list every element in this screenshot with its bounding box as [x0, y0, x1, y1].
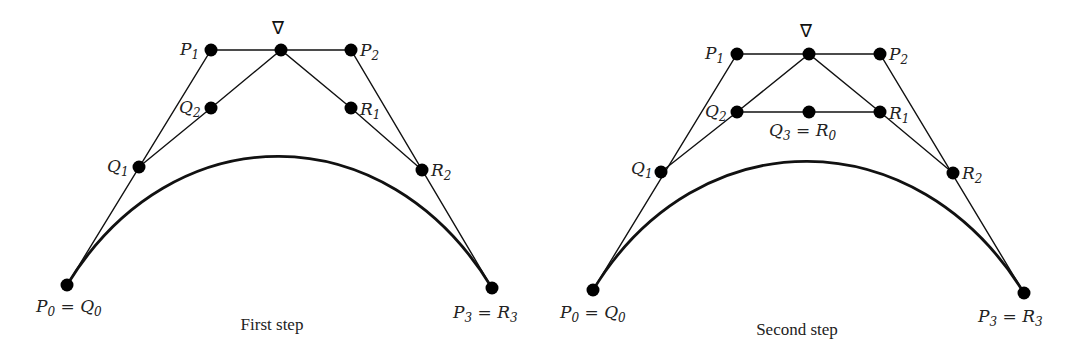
label-p3-r3: P3 = R3 — [452, 302, 518, 325]
point-r2 — [947, 167, 960, 180]
caption-first-step: First step — [241, 315, 304, 334]
label-q3-r0: Q3 = R0 — [769, 120, 836, 143]
point-q1 — [655, 166, 668, 179]
label-p3-r3: P3 = R3 — [977, 306, 1043, 329]
nabla-symbol: ∇ — [271, 17, 285, 38]
point-p0 — [61, 279, 74, 292]
label-p1: P1 — [179, 39, 199, 62]
point-p1 — [205, 44, 218, 57]
point-r1 — [345, 102, 358, 115]
label-r2: R2 — [961, 163, 982, 186]
panel-second-step: ∇ P1 P2 Q2 R1 Q3 = R0 Q1 R2 P0 = Q0 P3 =… — [559, 20, 1043, 339]
bezier-curve — [593, 161, 1024, 293]
label-p0-q0: P0 = Q0 — [559, 302, 626, 325]
bezier-curve — [67, 156, 492, 288]
point-p2 — [345, 44, 358, 57]
point-p2 — [874, 48, 887, 61]
panel-first-step: ∇ P1 P2 Q2 R1 Q1 R2 P0 = Q0 P3 = R3 Firs… — [35, 17, 518, 334]
label-p1: P1 — [704, 43, 724, 66]
label-r1: R1 — [888, 103, 909, 126]
caption-second-step: Second step — [756, 320, 838, 339]
point-p3 — [1018, 287, 1031, 300]
bezier-subdivision-diagram: ∇ P1 P2 Q2 R1 Q1 R2 P0 = Q0 P3 = R3 Firs… — [0, 0, 1087, 353]
label-q2: Q2 — [179, 97, 201, 120]
label-q1: Q1 — [107, 156, 129, 179]
point-q2 — [731, 106, 744, 119]
point-q3-r0 — [803, 106, 816, 119]
point-p0 — [587, 284, 600, 297]
nabla-symbol: ∇ — [799, 20, 813, 41]
point-q2 — [205, 102, 218, 115]
point-p3 — [486, 282, 499, 295]
label-p2: P2 — [888, 44, 908, 67]
point-q1 — [133, 161, 146, 174]
point-r1 — [874, 106, 887, 119]
label-r2: R2 — [430, 160, 451, 183]
point-p1 — [731, 48, 744, 61]
label-p0-q0: P0 = Q0 — [35, 296, 102, 319]
point-midpoint — [275, 44, 288, 57]
label-q2: Q2 — [705, 101, 727, 124]
label-q1: Q1 — [631, 158, 653, 181]
point-midpoint — [803, 48, 816, 61]
label-r1: R1 — [359, 99, 380, 122]
point-r2 — [416, 164, 429, 177]
label-p2: P2 — [359, 40, 379, 63]
